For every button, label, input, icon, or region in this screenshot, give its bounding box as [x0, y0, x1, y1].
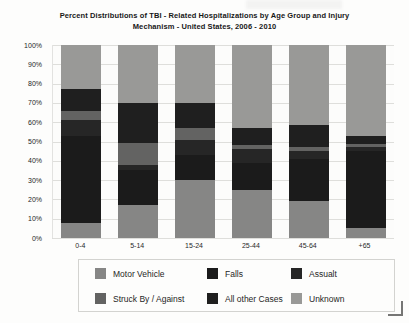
bar-segment: [346, 151, 386, 228]
y-axis: 100%90%80%70%60%50%40%30%20%10%0%: [0, 45, 48, 238]
bar-segment: [346, 45, 386, 136]
bar-segment: [289, 151, 329, 159]
y-tick-label: 60%: [0, 119, 42, 126]
stacked-bar-0-4: [61, 45, 101, 238]
bar-segment: [175, 140, 215, 155]
y-tick-label: 0%: [0, 235, 42, 242]
bar-segment: [175, 180, 215, 238]
bar-segment: [118, 205, 158, 238]
y-tick-label: 10%: [0, 215, 42, 222]
legend-item: Struck By / Against: [95, 293, 207, 304]
bars-container: [53, 45, 394, 238]
bar-segment: [61, 89, 101, 110]
plot-area: [52, 45, 394, 239]
x-tick-label: 25-44: [228, 242, 274, 249]
legend-swatch-icon: [95, 268, 106, 279]
bar-segment: [232, 163, 272, 190]
legend-swatch-icon: [207, 293, 218, 304]
legend-label: Unknown: [309, 294, 344, 304]
legend-item: Motor Vehicle: [95, 268, 207, 279]
y-tick-label: 100%: [0, 42, 42, 49]
y-tick-label: 90%: [0, 61, 42, 68]
y-tick-label: 30%: [0, 177, 42, 184]
bar-segment: [346, 136, 386, 145]
x-tick-label: +65: [342, 242, 388, 249]
bar-segment: [232, 190, 272, 238]
bar-segment: [289, 159, 329, 201]
stacked-bar-45-64: [289, 45, 329, 238]
x-tick-label: 15-24: [171, 242, 217, 249]
bar-segment: [289, 45, 329, 125]
scan-corner-artifact: [388, 301, 403, 316]
legend-label: Falls: [225, 269, 243, 279]
bar-segment: [61, 136, 101, 223]
legend-swatch-icon: [291, 268, 302, 279]
legend-label: All other Cases: [225, 294, 283, 304]
bar-segment: [61, 45, 101, 89]
legend-item: Assualt: [291, 268, 394, 279]
y-tick-label: 80%: [0, 80, 42, 87]
legend-label: Struck By / Against: [113, 294, 184, 304]
legend-swatch-icon: [95, 293, 106, 304]
bar-segment: [118, 170, 158, 205]
x-tick-label: 45-64: [285, 242, 331, 249]
bar-segment: [175, 155, 215, 180]
bar-segment: [61, 111, 101, 121]
legend-swatch-icon: [207, 268, 218, 279]
bar-segment: [232, 149, 272, 163]
legend: Motor VehicleFallsAssualtStruck By / Aga…: [78, 259, 395, 312]
legend-item: Unknown: [291, 293, 394, 304]
y-tick-label: 70%: [0, 99, 42, 106]
y-tick-label: 40%: [0, 157, 42, 164]
chart-title: Percent Distributions of TBI - Related H…: [44, 11, 366, 33]
bar-segment: [61, 120, 101, 135]
stacked-bar-+65: [346, 45, 386, 238]
bar-segment: [175, 128, 215, 140]
x-axis: 0-45-1415-2425-4445-64+65: [52, 242, 393, 249]
legend-item: Falls: [207, 268, 291, 279]
stacked-bar-5-14: [118, 45, 158, 238]
bar-segment: [175, 45, 215, 103]
bar-segment: [118, 45, 158, 103]
legend-item: All other Cases: [207, 293, 291, 304]
bar-segment: [118, 103, 158, 144]
legend-label: Motor Vehicle: [113, 269, 165, 279]
bleed-through-artifact: [246, 0, 342, 9]
x-tick-label: 5-14: [114, 242, 160, 249]
bar-segment: [118, 143, 158, 164]
x-tick-label: 0-4: [57, 242, 103, 249]
y-tick-label: 20%: [0, 196, 42, 203]
stacked-bar-25-44: [232, 45, 272, 238]
legend-label: Assualt: [309, 269, 337, 279]
bar-segment: [232, 45, 272, 128]
bar-segment: [175, 103, 215, 128]
bar-segment: [289, 201, 329, 238]
gridline: [53, 238, 394, 239]
bar-segment: [346, 228, 386, 238]
legend-swatch-icon: [291, 293, 302, 304]
bar-segment: [289, 125, 329, 147]
stacked-bar-15-24: [175, 45, 215, 238]
bar-segment: [61, 223, 101, 238]
bar-segment: [232, 128, 272, 145]
y-tick-label: 50%: [0, 138, 42, 145]
chart-page: Percent Distributions of TBI - Related H…: [0, 0, 409, 323]
